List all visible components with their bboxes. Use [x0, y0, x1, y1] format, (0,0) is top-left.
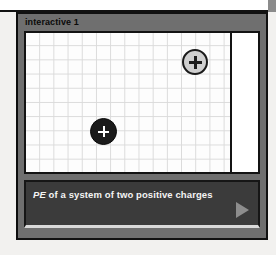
plus-icon: [98, 126, 109, 137]
play-button[interactable]: [233, 201, 251, 219]
page-top-strip-right-block: [268, 0, 276, 12]
page-top-strip: [0, 0, 276, 12]
panel-bottom-shade: [18, 228, 266, 238]
caption-term: PE: [33, 189, 46, 200]
caption-text: PE of a system of two positive charges: [33, 188, 218, 201]
readout-panel: [232, 33, 258, 172]
positive-charge-dark[interactable]: [90, 118, 117, 145]
play-triangle-icon: [233, 201, 251, 219]
plus-icon: [189, 56, 202, 69]
caption-bar: PE of a system of two positive charges: [24, 180, 260, 228]
caption-rest: of a system of two positive charges: [46, 189, 213, 200]
page-title: interactive 1: [25, 17, 79, 27]
positive-charge-light[interactable]: [182, 49, 208, 75]
simulation-stage[interactable]: [24, 31, 260, 174]
interactive-widget-panel: interactive 1 PE of a system of two posi…: [16, 12, 268, 240]
